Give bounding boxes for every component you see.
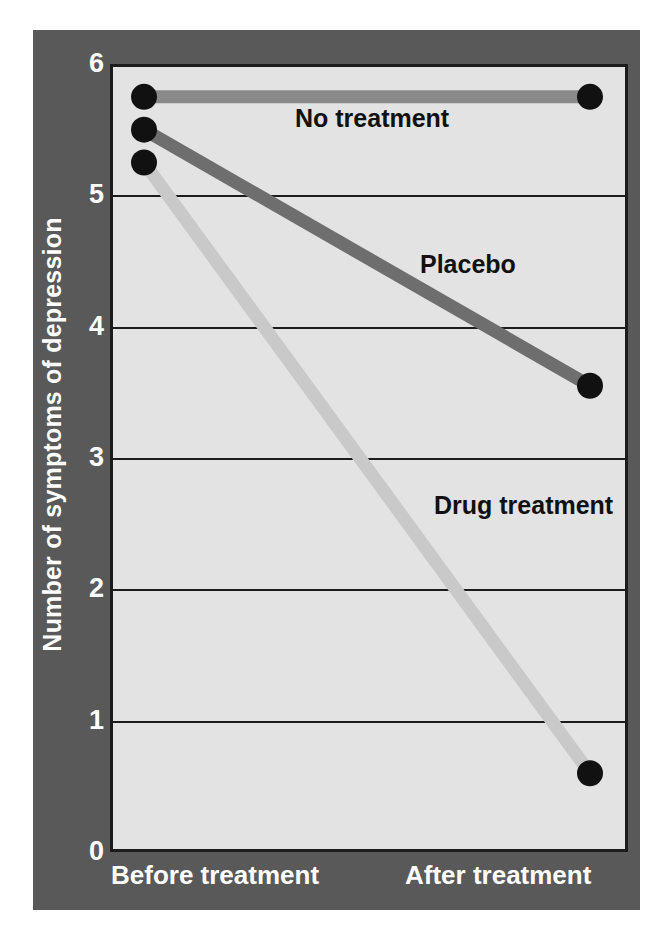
y-tick-2: 2 bbox=[60, 575, 104, 602]
gridline-y-2 bbox=[113, 589, 625, 591]
series-annotation-drug-treatment: Drug treatment bbox=[434, 491, 613, 520]
y-tick-4: 4 bbox=[60, 313, 104, 340]
gridline-y-1 bbox=[113, 721, 625, 723]
gridline-y-3 bbox=[113, 458, 625, 460]
x-tick-after-treatment: After treatment bbox=[405, 860, 591, 891]
y-tick-3: 3 bbox=[60, 444, 104, 471]
y-tick-6: 6 bbox=[60, 50, 104, 77]
series-annotation-placebo: Placebo bbox=[420, 250, 516, 279]
series-annotation-no-treatment: No treatment bbox=[295, 104, 449, 133]
x-tick-before-treatment: Before treatment bbox=[111, 860, 319, 891]
x-axis-tick-labels: Before treatment After treatment bbox=[33, 860, 640, 902]
y-tick-1: 1 bbox=[60, 707, 104, 734]
chart-figure: Number of symptoms of depression 6 5 4 3… bbox=[0, 0, 671, 939]
gridline-y-4 bbox=[113, 327, 625, 329]
y-tick-5: 5 bbox=[60, 181, 104, 208]
gridlines-group bbox=[113, 67, 625, 849]
y-axis-tick-labels: 6 5 4 3 2 1 0 bbox=[48, 64, 104, 852]
plot-area bbox=[110, 64, 628, 852]
gridline-y-5 bbox=[113, 195, 625, 197]
